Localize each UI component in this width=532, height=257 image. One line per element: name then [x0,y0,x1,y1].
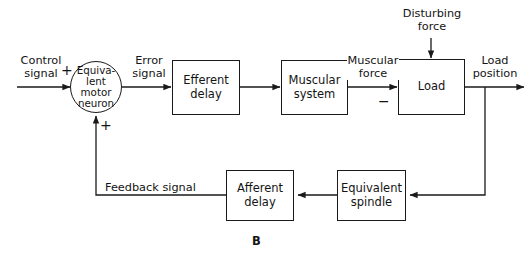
block-load-label: Load [418,80,446,94]
sign-minus-disturbance: − [378,94,390,108]
label-control-signal: Control signal [14,54,68,80]
block-load[interactable]: Load [398,59,465,115]
label-feedback-signal: Feedback signal [105,181,225,194]
block-efferent-delay-label: Efferent delay [183,74,229,101]
label-disturbing-force: Disturbing force [398,7,466,33]
block-diagram: Equiva- lent motor neuron Efferent delay… [0,0,532,257]
block-afferent-delay[interactable]: Afferent delay [226,170,294,221]
block-afferent-delay-label: Afferent delay [237,182,283,209]
block-equivalent-spindle-label: Equivalent spindle [341,182,402,209]
sign-plus-control: + [61,63,73,77]
block-efferent-delay[interactable]: Efferent delay [172,60,240,115]
block-muscular-system-label: Muscular system [289,74,341,101]
block-muscular-system[interactable]: Muscular system [281,60,348,115]
figure-label: B [252,236,261,248]
sign-plus-feedback: + [100,118,112,132]
block-equivalent-motor-neuron[interactable]: Equiva- lent motor neuron [70,61,122,113]
block-equivalent-spindle[interactable]: Equivalent spindle [337,170,406,221]
label-muscular-force: Muscular force [347,54,399,80]
label-error-signal: Error signal [126,54,172,80]
block-equivalent-motor-neuron-label: Equiva- lent motor neuron [77,65,116,109]
label-load-position: Load position [466,54,524,80]
